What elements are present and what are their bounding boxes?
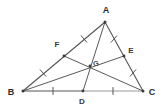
point-markers bbox=[22, 21, 145, 93]
label-F: F bbox=[55, 40, 60, 49]
triangle-median-diagram: A B C D E F G bbox=[0, 0, 163, 108]
label-B: B bbox=[8, 87, 15, 97]
geometry-figure: A B C D E F G bbox=[0, 0, 163, 108]
tick-ec-icon bbox=[130, 70, 136, 76]
point-C-marker bbox=[142, 90, 145, 93]
point-B-marker bbox=[22, 90, 25, 93]
point-G-marker bbox=[89, 65, 92, 68]
point-F-marker bbox=[63, 55, 66, 58]
label-D: D bbox=[79, 97, 85, 106]
label-E: E bbox=[128, 46, 134, 55]
label-G: G bbox=[93, 59, 99, 68]
median-CF bbox=[64, 56, 143, 91]
label-A: A bbox=[103, 5, 110, 15]
label-C: C bbox=[149, 87, 156, 97]
median-BE bbox=[23, 56, 124, 91]
point-E-marker bbox=[123, 55, 126, 58]
median-AD bbox=[83, 22, 105, 91]
point-A-marker bbox=[104, 21, 107, 24]
point-D-marker bbox=[82, 90, 85, 93]
